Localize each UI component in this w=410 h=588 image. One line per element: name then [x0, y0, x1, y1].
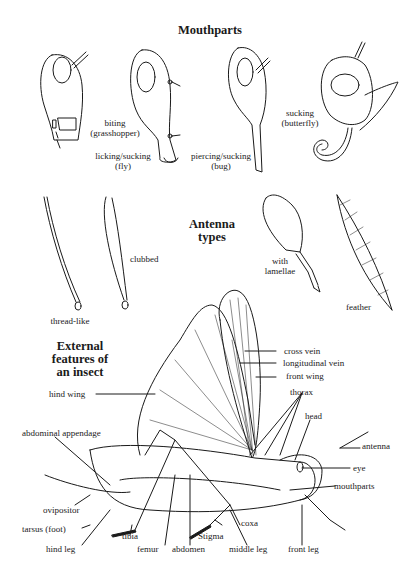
- feather-antenna-drawing: [337, 195, 392, 310]
- mouthpart-label-sucking: sucking (butterfly): [276, 108, 324, 128]
- front-wing-drawing: [219, 290, 260, 458]
- antenna-label-feather: feather: [346, 302, 371, 312]
- lamellae-antenna-drawing: [263, 195, 320, 292]
- clubbed-antenna-drawing: [104, 197, 128, 309]
- mouthpart-label-biting: biting (grasshopper): [90, 118, 140, 138]
- mouthpart-label-line2: (fly): [88, 161, 158, 171]
- antenna-label-line1: with: [258, 256, 302, 266]
- label-head: head: [305, 411, 322, 421]
- mouthpart-label-line2: (grasshopper): [90, 128, 140, 138]
- thread-like-antenna-drawing: [44, 197, 81, 310]
- mouthpart-label-line1: sucking: [276, 108, 324, 118]
- label-hind-leg: hind leg: [46, 544, 75, 554]
- label-middle-leg: middle leg: [229, 544, 267, 554]
- mouthpart-label-piercing: piercing/sucking (bug): [185, 151, 257, 171]
- label-abdomen: abdomen: [172, 544, 205, 554]
- label-antenna: antenna: [362, 441, 390, 451]
- label-abdominal-appendage: abdominal appendage: [22, 428, 101, 438]
- antenna-title: Antenna types: [182, 218, 242, 244]
- hind-wing-drawing: [137, 305, 255, 455]
- label-longitudinal-vein: longitudinal vein: [283, 358, 344, 368]
- label-femur: femur: [137, 544, 159, 554]
- label-hind-wing: hind wing: [49, 389, 85, 399]
- diagram-drawing: [0, 0, 410, 588]
- mouthpart-label-line2: (bug): [185, 161, 257, 171]
- mouthpart-label-line1: licking/sucking: [88, 151, 158, 161]
- mouthpart-label-line1: biting: [90, 118, 140, 128]
- mouthparts-title: Mouthparts: [165, 24, 255, 37]
- antenna-label-clubbed: clubbed: [130, 254, 159, 264]
- label-mouthparts: mouthparts: [334, 481, 375, 491]
- label-cross-vein: cross vein: [284, 346, 320, 356]
- label-stigma: Stigma: [198, 531, 224, 541]
- label-coxa: coxa: [241, 518, 258, 528]
- label-front-wing: front wing: [286, 371, 324, 381]
- label-thorax: thorax: [290, 387, 313, 397]
- antenna-label-thread-like: thread-like: [44, 316, 96, 326]
- butterfly-head-drawing: [314, 42, 398, 161]
- insect-title: External features of an insect: [40, 340, 120, 379]
- grasshopper-head-drawing: [41, 52, 88, 148]
- mouthpart-label-line2: (butterfly): [276, 118, 324, 128]
- label-front-leg: front leg: [288, 544, 319, 554]
- insect-title-line3: an insect: [40, 366, 120, 379]
- fly-head-drawing: [131, 50, 180, 163]
- label-eye: eye: [353, 463, 366, 473]
- antenna-title-line2: types: [182, 231, 242, 244]
- antenna-label-line2: lamellae: [258, 266, 302, 276]
- label-ovipositor: ovipositor: [43, 505, 80, 515]
- mouthpart-label-line1: piercing/sucking: [185, 151, 257, 161]
- label-tarsus: tarsus (foot): [22, 524, 66, 534]
- antenna-label-lamellae: with lamellae: [258, 256, 302, 276]
- label-tibia: tibia: [122, 531, 138, 541]
- mouthpart-label-licking: licking/sucking (fly): [88, 151, 158, 171]
